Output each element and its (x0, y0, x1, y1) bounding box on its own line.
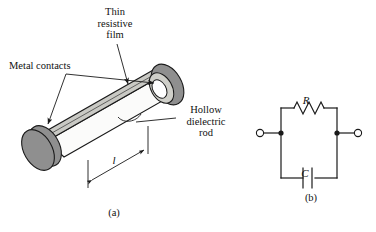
label-hollow-dielectric-rod: Hollow dielectric rod (176, 104, 236, 139)
leader-thin-film (117, 44, 128, 84)
label-thin-resistive-film: Thin resistive film (84, 6, 146, 41)
label-resistor-symbol: R (300, 95, 312, 107)
leader-hollow-rod (136, 118, 176, 122)
panel-caption-b: (b) (297, 192, 325, 204)
right-junction-dot (334, 130, 339, 135)
rod-assembly (15, 58, 191, 176)
left-junction-dot (278, 130, 283, 135)
left-terminal-circle (256, 129, 263, 136)
label-capacitor-symbol: C (299, 168, 311, 180)
figure-container: Thin resistive film Metal contacts Hollo… (0, 0, 376, 232)
panel-caption-a: (a) (100, 207, 128, 219)
leader-metal-contacts-left (48, 74, 66, 124)
label-length-symbol: l (109, 155, 119, 167)
right-terminal-circle (354, 129, 361, 136)
label-metal-contacts: Metal contacts (9, 60, 89, 72)
